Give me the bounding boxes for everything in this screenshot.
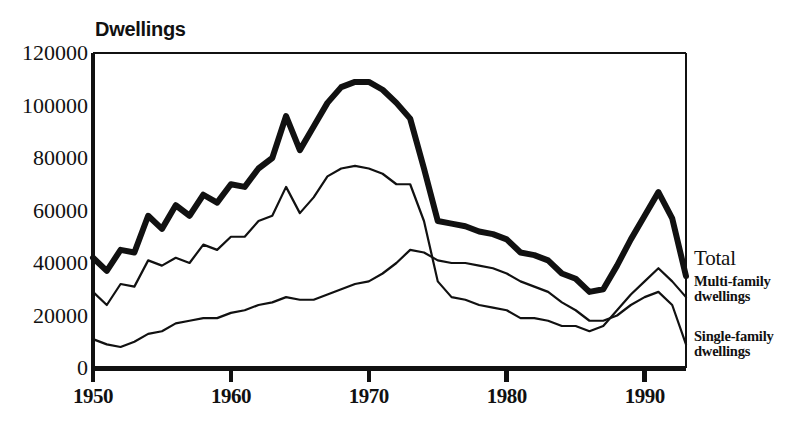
legend-label-multi-family-line1: Multi-family: [694, 274, 771, 289]
y-tick-label: 0: [2, 355, 88, 381]
legend-label-multi-family: Multi-family dwellings: [694, 274, 771, 303]
x-tick-label: 1960: [211, 384, 251, 409]
y-tick-label: 80000: [2, 145, 88, 171]
legend-label-total: Total: [694, 246, 736, 271]
legend-label-multi-family-line2: dwellings: [694, 289, 771, 304]
x-tick-label: 1990: [625, 384, 665, 409]
x-tick-label: 1950: [73, 384, 113, 409]
legend-label-single-family: Single-family dwellings: [694, 329, 774, 358]
plot-area: [0, 0, 808, 434]
y-tick-label: 40000: [2, 250, 88, 276]
x-tick-label: 1970: [349, 384, 389, 409]
series-line-multi-family-dwellings: [93, 166, 686, 331]
y-tick-label: 60000: [2, 198, 88, 224]
axis-lines: [93, 53, 686, 382]
legend-label-single-family-line2: dwellings: [694, 344, 774, 359]
y-tick-label: 120000: [2, 40, 88, 66]
x-tick-label: 1980: [487, 384, 527, 409]
data-series-group: [93, 82, 686, 347]
y-tick-label: 20000: [2, 303, 88, 329]
y-axis-tick-labels: 020000400006000080000100000120000: [0, 0, 88, 434]
chart-container: Dwellings 020000400006000080000100000120…: [0, 0, 808, 434]
legend-label-single-family-line1: Single-family: [694, 329, 774, 344]
series-line-single-family-dwellings: [93, 250, 686, 347]
y-tick-label: 100000: [2, 93, 88, 119]
